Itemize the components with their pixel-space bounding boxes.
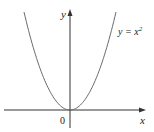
parabola-graph: y x 0 y = x2: [0, 0, 154, 132]
origin-label: 0: [60, 115, 65, 126]
x-axis-arrow-icon: [139, 108, 146, 113]
graph-canvas: y x 0 y = x2: [0, 0, 154, 132]
curve-label-base: y = x: [117, 26, 139, 37]
curve-label-exponent: 2: [139, 25, 143, 33]
y-axis-label: y: [60, 8, 66, 20]
y-axis-arrow-icon: [68, 9, 73, 16]
x-axis-label: x: [139, 114, 145, 126]
curve-label: y = x2: [117, 25, 143, 37]
